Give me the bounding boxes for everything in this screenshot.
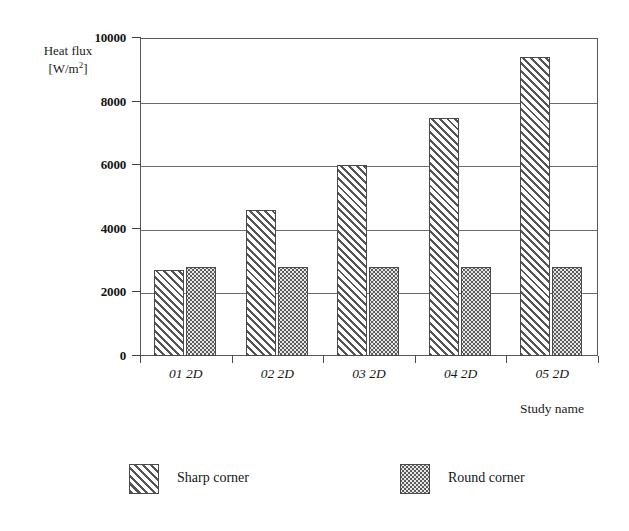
y-tick-label-6000: 6000	[56, 157, 126, 173]
bar-sharp-04-2d	[429, 118, 459, 357]
bar-round-05-2d	[552, 267, 582, 356]
legend-label-round-corner: Round corner	[448, 470, 525, 486]
bar-round-03-2d	[369, 267, 399, 356]
bar-sharp-05-2d	[520, 57, 550, 356]
bars-layer	[140, 38, 598, 356]
legend-swatch-round-corner-icon	[400, 464, 430, 494]
legend-label-sharp-corner: Sharp corner	[177, 470, 249, 486]
legend-swatch-sharp-corner-icon	[129, 464, 159, 494]
x-tick-mark-3	[415, 356, 416, 363]
y-tick-label-2000: 2000	[56, 284, 126, 300]
y-tick-label-8000: 8000	[56, 94, 126, 110]
y-tick-label-10000: 10000	[56, 30, 126, 46]
x-tick-mark-1	[232, 356, 233, 363]
y-tick-label-0: 0	[56, 348, 126, 364]
bar-sharp-01-2d	[154, 270, 184, 356]
x-tick-mark-0	[140, 356, 141, 363]
x-tick-mark-5	[598, 356, 599, 363]
x-tick-mark-2	[323, 356, 324, 363]
x-tick-mark-4	[506, 356, 507, 363]
x-tick-label-04-2d: 04 2D	[415, 366, 507, 382]
x-tick-label-05-2d: 05 2D	[506, 366, 598, 382]
x-axis-title: Study name	[497, 401, 607, 417]
bar-sharp-03-2d	[337, 165, 367, 356]
y-tick-label-4000: 4000	[56, 221, 126, 237]
y-axis-title-line2: [W/m2]	[18, 58, 118, 76]
y-axis-units-prefix: [W/m	[48, 61, 78, 76]
bar-chart: Heat flux [W/m2] 10000 8000 6000 4000 20…	[0, 0, 629, 531]
y-axis-units-suffix: ]	[83, 61, 87, 76]
legend-item-sharp-corner: Sharp corner	[129, 462, 349, 496]
bar-sharp-02-2d	[246, 210, 276, 356]
x-tick-label-03-2d: 03 2D	[323, 366, 415, 382]
bar-round-02-2d	[278, 267, 308, 356]
x-tick-label-01-2d: 01 2D	[140, 366, 232, 382]
x-tick-label-02-2d: 02 2D	[231, 366, 323, 382]
legend-item-round-corner: Round corner	[400, 462, 620, 496]
chart-legend: Sharp corner Round corner	[0, 462, 629, 502]
bar-round-01-2d	[186, 267, 216, 356]
bar-round-04-2d	[461, 267, 491, 356]
